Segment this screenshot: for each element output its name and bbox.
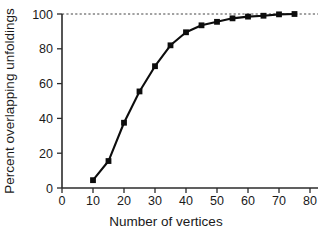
chart-canvas: 02040608010001020304050607080 Number of … bbox=[0, 0, 326, 233]
y-axis-tick-label: 20 bbox=[39, 147, 53, 161]
x-axis-tick-label: 40 bbox=[179, 194, 193, 208]
y-axis-tick-label: 100 bbox=[32, 8, 53, 22]
data-point-marker bbox=[292, 11, 298, 17]
y-axis-tick-label: 80 bbox=[39, 42, 53, 56]
data-point-marker bbox=[152, 63, 158, 69]
data-point-marker bbox=[276, 11, 282, 17]
data-series-line bbox=[93, 14, 295, 180]
data-point-marker bbox=[199, 22, 205, 28]
data-point-marker bbox=[106, 158, 112, 164]
data-point-marker bbox=[121, 120, 127, 126]
data-point-marker bbox=[230, 15, 236, 21]
y-axis-tick-label: 40 bbox=[39, 112, 53, 126]
x-axis-tick-label: 20 bbox=[117, 194, 131, 208]
x-axis-tick-label: 50 bbox=[210, 194, 224, 208]
data-point-marker bbox=[261, 13, 267, 19]
data-point-marker bbox=[168, 42, 174, 48]
data-point-marker bbox=[214, 19, 220, 25]
data-point-marker bbox=[137, 89, 143, 95]
x-axis-tick-label: 60 bbox=[241, 194, 255, 208]
data-point-marker bbox=[183, 29, 189, 35]
x-axis-title: Number of vertices bbox=[109, 214, 223, 229]
x-axis-tick-label: 30 bbox=[148, 194, 162, 208]
y-axis-tick-label: 60 bbox=[39, 77, 53, 91]
data-point-marker bbox=[245, 14, 251, 20]
x-axis-tick-label: 10 bbox=[86, 194, 100, 208]
y-axis-title: Percent overlapping unfoldings bbox=[2, 8, 17, 194]
data-point-marker bbox=[90, 177, 96, 183]
x-axis-tick-label: 80 bbox=[303, 194, 317, 208]
x-axis-tick-label: 0 bbox=[59, 194, 66, 208]
x-axis-tick-label: 70 bbox=[272, 194, 286, 208]
y-axis-tick-label: 0 bbox=[46, 182, 53, 196]
chart-figure: 02040608010001020304050607080 Number of … bbox=[0, 0, 326, 233]
